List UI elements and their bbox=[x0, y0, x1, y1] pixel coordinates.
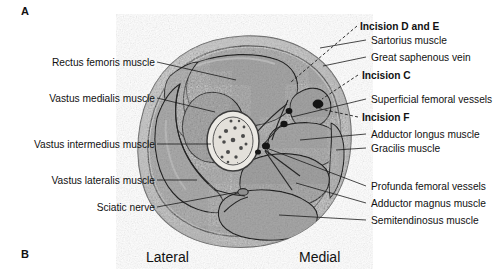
label-vastus-lateralis-muscle: Vastus lateralis muscle bbox=[52, 175, 155, 186]
femur-bone bbox=[207, 111, 259, 171]
leader-sartorius bbox=[320, 40, 366, 48]
great-saphenous-vein-marker bbox=[313, 100, 324, 109]
orientation-label-lateral: Lateral bbox=[146, 249, 189, 265]
label-semitendinosus-muscle: Semitendinosus muscle bbox=[371, 215, 479, 226]
label-vastus-intermedius-muscle: Vastus intermedius muscle bbox=[34, 139, 155, 150]
label-vastus-medialis-muscle: Vastus medialis muscle bbox=[49, 93, 155, 104]
sciatic-nerve-marker bbox=[238, 189, 248, 196]
label-superficial-femoral-vessels: Superficial femoral vessels bbox=[371, 94, 492, 105]
profunda-femoral-vessel-marker-2 bbox=[255, 149, 261, 154]
label-incision-f: Incision F bbox=[362, 112, 410, 123]
label-incision-c: Incision C bbox=[362, 70, 411, 81]
label-adductor-magnus-muscle: Adductor magnus muscle bbox=[371, 198, 486, 209]
leader-great-saphenous-vein bbox=[323, 57, 366, 66]
label-gracilis-muscle: Gracilis muscle bbox=[371, 143, 440, 154]
superficial-femoral-vessel-marker-2 bbox=[280, 121, 287, 127]
label-sartorius-muscle: Sartorius muscle bbox=[371, 35, 447, 46]
superficial-femoral-vessel-marker-1 bbox=[286, 108, 293, 114]
label-rectus-femoris-muscle: Rectus femoris muscle bbox=[52, 57, 155, 68]
thigh-cross-section-figure: A B Rectus femoris muscle Vastus mediali… bbox=[0, 0, 504, 273]
orientation-label-medial: Medial bbox=[299, 249, 340, 265]
panel-letter-b: B bbox=[21, 248, 29, 260]
label-incision-d-and-e: Incision D and E bbox=[360, 21, 439, 32]
profunda-femoral-vessel-marker bbox=[262, 142, 270, 149]
label-profunda-femoral-vessels: Profunda femoral vessels bbox=[371, 181, 486, 192]
label-great-saphenous-vein: Great saphenous vein bbox=[371, 52, 471, 63]
label-adductor-longus-muscle: Adductor longus muscle bbox=[371, 129, 480, 140]
label-sciatic-nerve: Sciatic nerve bbox=[97, 202, 155, 213]
panel-letter-a: A bbox=[21, 5, 29, 17]
